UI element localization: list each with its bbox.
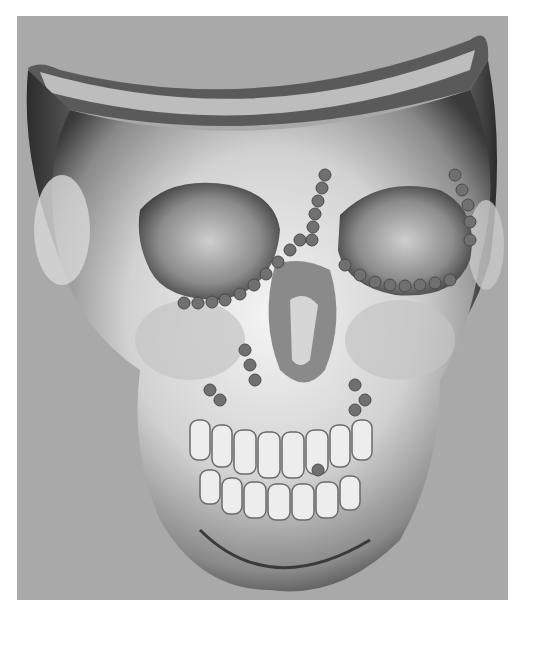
skull-illustration xyxy=(17,16,508,600)
ct-render-viewport xyxy=(17,16,508,600)
